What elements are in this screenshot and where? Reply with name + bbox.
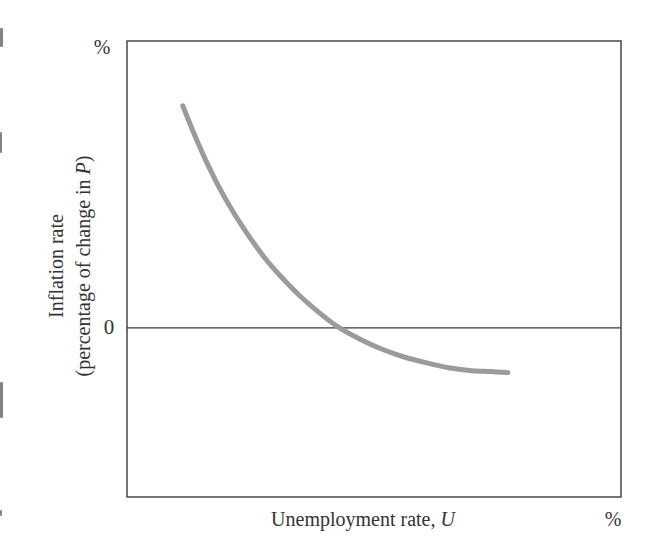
y-axis-title-line2: (percentage of change in P) [70,116,97,416]
y-axis-title: Inflation rate (percentage of change in … [43,116,97,416]
y-axis-title-line1: Inflation rate [43,116,70,416]
phillips-curve [183,106,508,373]
plot-border [127,41,621,497]
scan-artifact [0,132,2,153]
y-axis-title-line2-text: (percentage of change in [72,174,94,376]
chart-canvas [0,0,653,541]
y-axis-unit-label: % [88,35,116,59]
scan-artifact [0,510,2,516]
x-axis-title: Unemployment rate, U [243,507,483,531]
y-axis-variable-P: P [72,162,94,174]
origin-zero-label: 0 [95,315,123,339]
y-axis-title-line2-close: ) [72,156,94,163]
scan-artifact [0,28,3,47]
phillips-curve-figure: % 0 Inflation rate (percentage of change… [0,0,653,541]
x-axis-unit-label: % [599,507,627,531]
x-axis-variable-U: U [440,508,454,530]
scan-artifact [0,382,3,418]
x-axis-title-text: Unemployment rate, [271,508,440,530]
